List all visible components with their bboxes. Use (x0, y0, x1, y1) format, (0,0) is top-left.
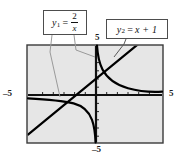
y1-equation-callout: y1 = 2 x (43, 10, 87, 35)
y2-right-hand-side: x + 1 (135, 24, 157, 35)
y1-operator: = (62, 17, 68, 28)
y1-equation: y1 = 2 x (52, 12, 78, 33)
y-axis-label-top: 5 (95, 33, 100, 42)
x-axis-label-right: 5 (169, 89, 174, 98)
y1-subscript: 1 (57, 21, 61, 29)
y-axis-label-bottom: –5 (92, 145, 101, 154)
y2-equation-callout: y2 = x + 1 (106, 19, 168, 39)
y2-equation: y2 = x + 1 (117, 24, 157, 35)
y1-fraction: 2 x (71, 12, 78, 33)
x-axis-label-left: –5 (3, 89, 12, 98)
y1-numerator: 2 (71, 12, 78, 21)
y2-subscript: 2 (121, 27, 125, 35)
y2-operator: = (127, 24, 133, 35)
y1-denominator: x (71, 24, 77, 33)
